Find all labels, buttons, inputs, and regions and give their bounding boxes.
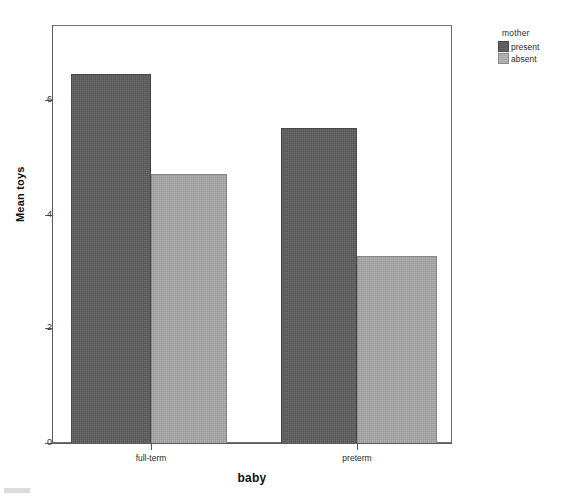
y-tick-label-6: 6 xyxy=(26,94,52,104)
legend-item-present: present xyxy=(498,41,566,52)
x-axis-title: baby xyxy=(52,471,452,485)
y-tick-label-2: 2 xyxy=(26,322,52,332)
legend-label-present: present xyxy=(511,42,539,52)
x-tick-mark-preterm xyxy=(357,443,358,450)
legend-label-absent: absent xyxy=(511,54,537,64)
legend-item-absent: absent xyxy=(498,53,566,64)
bar-full-term-present xyxy=(71,74,151,444)
bar-preterm-present xyxy=(281,128,357,444)
y-axis-line xyxy=(52,25,53,443)
bar-chart: 6 4 2 0 Mean toys full-term preterm baby… xyxy=(0,0,567,499)
x-tick-label-preterm: preterm xyxy=(297,453,417,463)
y-axis-title: Mean toys xyxy=(14,112,26,222)
legend-swatch-absent xyxy=(498,53,509,64)
legend: mother present absent xyxy=(498,28,566,65)
y-tick-label-0: 0 xyxy=(26,437,52,447)
x-tick-mark-full-term xyxy=(151,443,152,450)
legend-title: mother xyxy=(502,28,566,38)
bar-full-term-absent xyxy=(151,174,227,444)
x-axis-line xyxy=(52,443,452,444)
scan-artifact xyxy=(4,488,30,493)
legend-swatch-present xyxy=(498,41,509,52)
bar-preterm-absent xyxy=(357,256,437,444)
x-tick-label-full-term: full-term xyxy=(91,453,211,463)
y-tick-label-4: 4 xyxy=(26,209,52,219)
